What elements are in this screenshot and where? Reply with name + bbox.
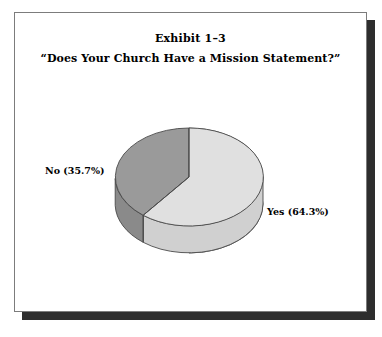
exhibit-screenshot: Exhibit 1–3 “Does Your Church Have a Mis… bbox=[0, 0, 382, 337]
pie-label-yes: Yes (64.3%) bbox=[267, 206, 329, 217]
exhibit-canvas: Exhibit 1–3 “Does Your Church Have a Mis… bbox=[15, 13, 366, 311]
pie-chart: No (35.7%) Yes (64.3%) bbox=[15, 13, 368, 313]
pie-label-no: No (35.7%) bbox=[45, 165, 104, 176]
exhibit-frame: Exhibit 1–3 “Does Your Church Have a Mis… bbox=[14, 12, 367, 312]
pie-chart-svg bbox=[15, 13, 368, 313]
